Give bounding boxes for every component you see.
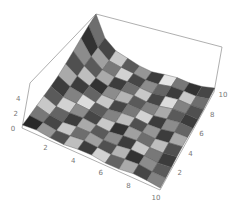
y-tick-label: 4 xyxy=(188,150,193,158)
y-tick-label: 6 xyxy=(199,130,204,138)
y-tick-label: 8 xyxy=(210,111,214,119)
z-tick-label: 4 xyxy=(16,95,21,103)
surface-mesh xyxy=(23,14,215,188)
z-tick-label: 2 xyxy=(13,110,17,118)
z-tick-label: 0 xyxy=(11,125,15,133)
y-tick-label: 10 xyxy=(219,91,228,99)
x-tick-label: 8 xyxy=(126,182,130,190)
box-edge xyxy=(96,14,222,47)
y-tick-label: 2 xyxy=(178,169,182,177)
x-tick-label: 10 xyxy=(152,194,161,201)
surface-plot-3d: 024246810246810 xyxy=(0,0,241,201)
x-tick-label: 2 xyxy=(43,144,47,152)
box-edge xyxy=(214,47,222,92)
x-tick-label: 6 xyxy=(99,169,104,177)
x-tick-label: 4 xyxy=(71,157,76,165)
